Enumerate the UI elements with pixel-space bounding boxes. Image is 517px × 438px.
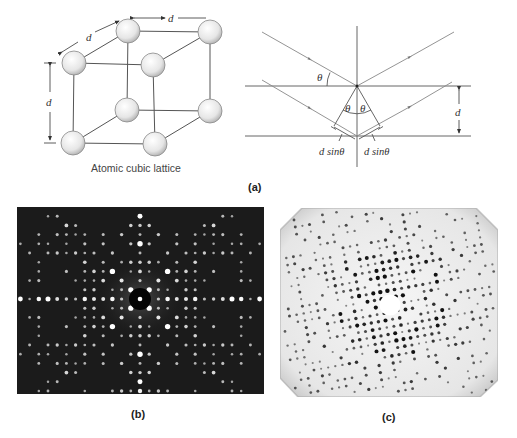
lattice-bonds [73, 31, 210, 144]
panel-a-label: (a) [248, 181, 261, 193]
atom [61, 131, 85, 155]
reflected-ray-upper [357, 57, 410, 86]
atom [115, 98, 139, 122]
diffraction-pattern-b [17, 207, 264, 394]
panel-c-label: (c) [382, 411, 395, 423]
path-difference-right: d sinθ [364, 146, 389, 157]
atom [143, 132, 167, 156]
lattice-dimension-top: d [168, 12, 174, 24]
path-difference-left: d sinθ [319, 146, 344, 157]
plane-spacing-label: d [455, 106, 461, 118]
angle-left-label: θ [345, 102, 351, 114]
lattice-dimension-vertical: d [46, 96, 52, 108]
panel-b-label: (b) [131, 408, 145, 420]
atom [198, 20, 222, 44]
atom [198, 99, 222, 123]
lattice-dimension-diagonal: d [86, 31, 92, 43]
atom [62, 51, 86, 75]
atom [141, 53, 165, 77]
bragg-reflection-diagram: θ θ θ d d sinθ d sinθ [240, 0, 517, 180]
atom [116, 19, 140, 43]
incident-angle-label: θ [317, 71, 323, 83]
lattice-caption: Atomic cubic lattice [91, 162, 181, 174]
incident-ray-lower [262, 80, 310, 108]
cubic-lattice-diagram: d d d Atomic cubic lattice [0, 0, 240, 180]
incident-ray-upper [262, 32, 310, 59]
angle-right-label: θ [360, 102, 366, 114]
diffraction-pattern-c [280, 208, 498, 397]
